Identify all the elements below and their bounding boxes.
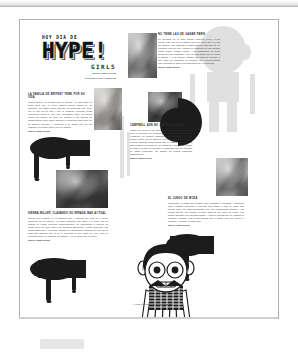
article-body-headline: EL JUEGO DE MODA	[168, 197, 244, 200]
article-photo-sienna	[56, 170, 108, 208]
article-sienna-kicker: TEXTO: REDACCION	[28, 239, 108, 242]
article-sienna-headline: SIENNA MILLER, CLAVANDO SU MIRADA MAS AC…	[28, 212, 108, 215]
article-sienna-body: Sienna luce radiante en la alfombra roja…	[28, 217, 108, 238]
article-body-copy: Conocidas en todas las revistas, pero vi…	[168, 202, 244, 223]
ink-drip-left-2	[66, 153, 70, 167]
masthead-eyebrow: HOY DIA DE	[42, 34, 138, 40]
article-sienna: SIENNA MILLER, CLAVANDO SU MIRADA MAS AC…	[28, 212, 108, 242]
ink-blob-left-body	[40, 140, 90, 156]
article-paris-headline: NO TIENE LAS DE GANAR PARIS	[158, 33, 220, 36]
article-naomi-body: Naomi ha vuelto a los tribunales por un …	[130, 129, 192, 156]
ink-drip-bottom-left-1	[46, 275, 51, 301]
gray-drip-1	[120, 116, 124, 178]
article-naomi: CAMPBELL AUN NO SE HA CALMADO Naomi ha v…	[130, 124, 192, 160]
scanner-top-band-edge	[0, 6, 298, 7]
article-britney-body: Padres Britney no dejaba para la prensa …	[28, 101, 92, 128]
masthead-title: HYPE!	[42, 41, 138, 62]
ink-drip-bottom-left-2	[72, 275, 76, 291]
article-paris-body: La heredera de la gran fortuna hotelera …	[158, 38, 220, 65]
article-photo-paris	[128, 33, 157, 78]
article-britney-kicker: TEXTO: REDACCION	[28, 130, 92, 133]
page-under-tab	[40, 339, 84, 349]
footer-caption-text: HYPE! La revista de las chicas	[133, 303, 166, 306]
article-britney-headline: LA FAMILIA DE BRITNEY TEME POR SU VIDA	[28, 93, 92, 100]
article-body-kicker: TEXTO: REDACCION	[168, 224, 244, 227]
article-photo-britney	[94, 88, 122, 130]
page-drop-shadow	[19, 317, 278, 319]
footer-page-number: p.014	[167, 303, 173, 306]
masthead-credit-line-1: TEXTO: REDACCION	[42, 72, 116, 75]
article-britney: LA FAMILIA DE BRITNEY TEME POR SU VIDA P…	[28, 93, 92, 133]
gray-drip-2	[127, 132, 130, 176]
masthead-credit-line-2: FOTOGRAFIAS: AGENCIAS	[42, 77, 116, 80]
article-naomi-headline: CAMPBELL AUN NO SE HA CALMADO	[130, 124, 192, 127]
footer-caption: HYPE! La revista de las chicas p.014	[108, 303, 198, 306]
article-photo-fashion	[216, 158, 248, 196]
magazine-page: HOY DIA DE HYPE! GIRLS TEXTO: REDACCION …	[19, 19, 279, 319]
ink-drip-left-1	[34, 153, 39, 179]
mascot-character	[124, 242, 208, 319]
masthead-subtitle: GIRLS	[42, 63, 116, 70]
masthead: HOY DIA DE HYPE! GIRLS TEXTO: REDACCION …	[42, 34, 138, 80]
article-naomi-kicker: TEXTO: REDACCION	[130, 157, 192, 160]
article-body: EL JUEGO DE MODA Conocidas en todas las …	[168, 197, 244, 227]
article-paris-kicker: TEXTO: REDACCION	[158, 66, 220, 69]
article-paris: NO TIENE LAS DE GANAR PARIS La heredera …	[158, 33, 220, 69]
